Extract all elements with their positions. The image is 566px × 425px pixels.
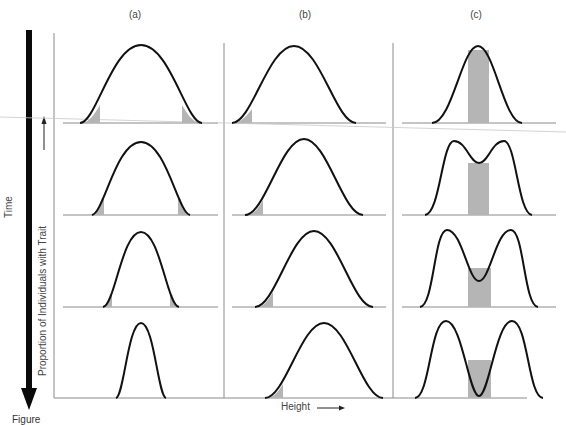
y-axis-arrow-icon — [42, 116, 47, 150]
x-axis-arrow-icon — [317, 406, 345, 411]
figure-caption: Figure — [12, 414, 40, 425]
time-arrow-icon — [21, 30, 37, 410]
panel-a — [80, 45, 202, 398]
panel-b — [232, 46, 383, 398]
panel-c — [415, 46, 543, 398]
